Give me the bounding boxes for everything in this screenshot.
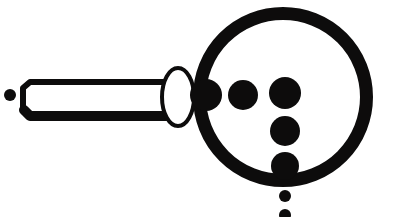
dot-row-2-icon: [228, 80, 258, 110]
handle-rod: [23, 82, 176, 116]
image-canvas: [0, 0, 393, 217]
dot-row-3-icon: [269, 77, 301, 109]
handle-body: [23, 82, 176, 115]
dot-col-3-icon: [279, 190, 291, 202]
ferrule-ellipse: [162, 68, 194, 126]
dot-row-1-icon: [190, 79, 222, 111]
magnifier-figure: [0, 0, 393, 217]
dot-col-1-icon: [270, 116, 300, 146]
stray-dot-left-icon: [4, 89, 16, 101]
dot-col-2-icon: [271, 152, 299, 180]
